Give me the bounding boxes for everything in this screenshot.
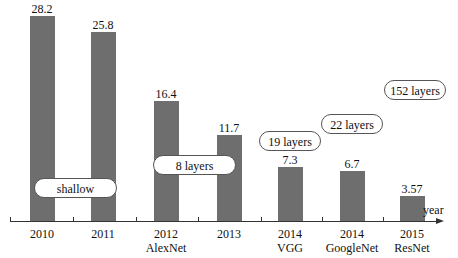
- value-label: 25.8: [78, 19, 128, 31]
- annotation-shallow: shallow: [34, 178, 117, 198]
- x-tick-label: 2010: [7, 227, 77, 241]
- x-tick-label: 2011: [68, 227, 138, 241]
- bar-2014-googlenet: [340, 171, 365, 221]
- x-axis-arrow-icon: [436, 218, 444, 224]
- value-label: 11.7: [204, 122, 254, 134]
- year-label: 2011: [68, 227, 138, 241]
- axis-tick: [73, 217, 74, 221]
- x-axis: [10, 221, 438, 222]
- year-label: 2014: [255, 227, 325, 241]
- axis-tick: [198, 217, 199, 221]
- value-label: 28.2: [17, 3, 67, 15]
- year-label: 2010: [7, 227, 77, 241]
- model-label: AlexNet: [131, 241, 201, 255]
- x-axis-label: year: [423, 203, 444, 218]
- axis-tick: [261, 217, 262, 221]
- axis-tick: [383, 217, 384, 221]
- annotation-22-layers: 22 layers: [321, 114, 383, 134]
- annotation-19-layers: 19 layers: [259, 131, 321, 151]
- annotation-152-layers: 152 layers: [384, 80, 446, 100]
- value-label: 3.57: [387, 183, 437, 195]
- year-label: 2015: [377, 227, 447, 241]
- axis-tick: [10, 217, 11, 221]
- x-tick-label: 2012 AlexNet: [131, 227, 201, 255]
- model-label: VGG: [255, 241, 325, 255]
- axis-tick: [136, 217, 137, 221]
- value-label: 6.7: [327, 158, 377, 170]
- bar-2014-vgg: [278, 167, 303, 221]
- axis-tick: [322, 217, 323, 221]
- model-label: ResNet: [377, 241, 447, 255]
- x-tick-label: 2015 ResNet: [377, 227, 447, 255]
- bar-2013: [217, 135, 242, 221]
- bar-chart: 28.2 25.8 16.4 11.7 7.3 6.7 3.57 year 20…: [0, 0, 458, 258]
- annotation-8-layers: 8 layers: [153, 155, 236, 175]
- x-tick-label: 2014 VGG: [255, 227, 325, 255]
- year-label: 2012: [131, 227, 201, 241]
- bar-2015-resnet: [400, 196, 425, 221]
- year-label: 2013: [194, 227, 264, 241]
- value-label: 7.3: [265, 154, 315, 166]
- x-tick-label: 2013: [194, 227, 264, 241]
- value-label: 16.4: [141, 88, 191, 100]
